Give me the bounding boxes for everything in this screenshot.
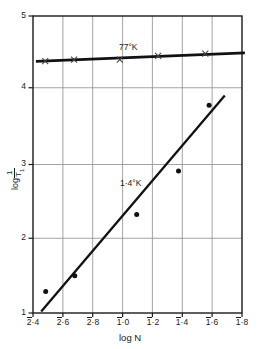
x-tick-frac-1: ·6 bbox=[62, 317, 70, 327]
x-tick-frac-0: ·4 bbox=[32, 317, 40, 327]
y-axis-title-prefix: log bbox=[10, 178, 20, 190]
y-tick-label-4: 4 bbox=[17, 81, 26, 91]
y-tick-label-5: 5 bbox=[17, 10, 26, 20]
y-tick-label-1: 1 bbox=[17, 307, 26, 317]
x-tick-frac-6: ·6 bbox=[211, 317, 219, 327]
x-tick-label-7: 1·8 bbox=[231, 317, 253, 327]
x-tick-label-4: 1·2 bbox=[142, 317, 164, 327]
y-axis-denominator-base: T bbox=[14, 172, 23, 177]
y-axis-title-denominator: T1 bbox=[14, 168, 25, 178]
plot-figure bbox=[0, 0, 260, 349]
x-tick-label-1: 2·6 bbox=[52, 317, 74, 327]
x-tick-label-5: 1·4 bbox=[171, 317, 193, 327]
annotation-14k: 1·4°K bbox=[120, 178, 141, 188]
x-tick-frac-7: ·8 bbox=[241, 317, 249, 327]
y-axis-title: log1T1 bbox=[6, 168, 25, 190]
x-tick-frac-3: ·0 bbox=[122, 317, 130, 327]
x-tick-label-6: 1·6 bbox=[201, 317, 223, 327]
figure-background bbox=[0, 0, 260, 349]
x-tick-label-0: 2·4 bbox=[22, 317, 44, 327]
y-axis-title-numerator: 1 bbox=[6, 168, 14, 178]
x-tick-frac-5: ·4 bbox=[181, 317, 189, 327]
y-tick-label-2: 2 bbox=[17, 232, 26, 242]
y-axis-title-fraction: 1T1 bbox=[6, 168, 25, 178]
y-tick-label-3: 3 bbox=[17, 158, 26, 168]
x-tick-frac-2: ·8 bbox=[92, 317, 100, 327]
y-axis-denominator-subscript: 1 bbox=[19, 169, 25, 172]
x-tick-label-2: 2·8 bbox=[82, 317, 104, 327]
x-tick-frac-4: ·2 bbox=[152, 317, 160, 327]
x-axis-title: log N bbox=[119, 332, 141, 343]
annotation-77k: 77°K bbox=[119, 42, 138, 52]
x-tick-label-3: 1·0 bbox=[112, 317, 134, 327]
